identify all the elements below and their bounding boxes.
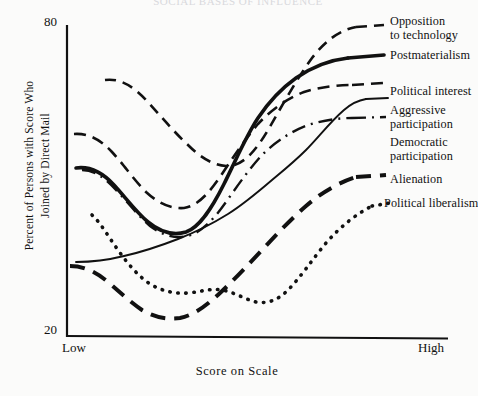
y-axis-title: Percent of Persons with Score Who Joined… — [22, 66, 53, 266]
legend-label-line: to technology — [390, 28, 458, 42]
legend-item-opposition-to-technology: Opposition to technology — [390, 14, 458, 43]
legend-label-line: Democratic — [390, 135, 453, 149]
legend-label-line: Aggressive — [390, 103, 453, 117]
legend-item-democratic-participation: Democratic participation — [390, 135, 453, 164]
legend-item-political-interest: Political interest — [390, 84, 471, 98]
legend-item-political-liberalism: Political liberalism — [384, 196, 478, 210]
legend-label-line: Opposition — [390, 14, 458, 28]
legend-item-postmaterialism: Postmaterialism — [390, 48, 470, 62]
legend-label-line: participation — [390, 149, 453, 163]
legend-tail-democratic-participation — [352, 117, 386, 118]
legend-tail-aggressive-participation — [366, 98, 388, 99]
legend-item-aggressive-participation: Aggressive participation — [390, 103, 453, 132]
legend-label-line: Political liberalism — [384, 196, 478, 210]
legend-tail-opposition-to-technology — [356, 25, 384, 27]
legend-label-line: participation — [390, 117, 453, 131]
legend-label-line: Political interest — [390, 84, 471, 98]
y-axis-tick-bottom: 20 — [44, 322, 57, 338]
legend-tail-political-interest — [352, 83, 384, 85]
series-line-opposition-to-technology — [105, 27, 356, 166]
series-line-democratic-participation — [82, 118, 352, 237]
legend-label-line: Postmaterialism — [390, 48, 470, 62]
legend-label-line: Alienation — [390, 172, 442, 186]
y-axis-tick-top: 80 — [44, 14, 57, 30]
legend-item-alienation: Alienation — [390, 172, 442, 186]
series-line-aggressive-participation — [76, 99, 366, 262]
series-line-alienation — [70, 177, 356, 319]
x-axis-tick-low: Low — [62, 340, 86, 356]
legend-tail-postmaterialism — [348, 55, 384, 58]
chart-legend: Opposition to technology Postmaterialism… — [390, 0, 474, 396]
legend-tail-alienation — [356, 175, 386, 177]
